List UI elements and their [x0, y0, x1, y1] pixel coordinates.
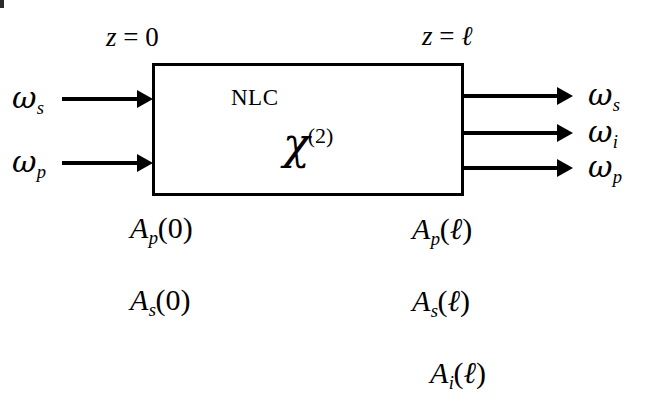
- output-frequency-label-idler: ωi: [588, 114, 618, 149]
- amplitude-subscript: p: [149, 227, 158, 248]
- omega-symbol: ω: [12, 80, 36, 115]
- output-plane-label: z = ℓ: [422, 20, 473, 52]
- output-frequency-label-pump: ωp: [588, 149, 622, 184]
- amplitude-argument: ℓ: [464, 355, 477, 390]
- nlc-label: NLC: [231, 85, 279, 111]
- output-amplitude-label-pump: Ap(ℓ): [412, 211, 472, 246]
- output-arrow-shaft-idler: [464, 131, 560, 135]
- chi-susceptibility-label: χ(2): [283, 118, 335, 169]
- output-plane-equals: =: [439, 21, 454, 51]
- output-amplitude-label-signal: As(ℓ): [412, 283, 470, 318]
- output-plane-value: ℓ: [461, 20, 472, 51]
- output-arrow-shaft-signal: [464, 94, 560, 98]
- input-plane-variable: z: [106, 22, 117, 52]
- input-frequency-label-pump: ωp: [12, 144, 46, 179]
- amplitude-subscript: i: [449, 372, 454, 393]
- amplitude-symbol: A: [412, 212, 430, 245]
- output-arrow-shaft-pump: [464, 166, 560, 170]
- output-frequency-label-signal: ωs: [588, 77, 620, 112]
- chi-symbol: χ: [283, 118, 310, 169]
- omega-symbol: ω: [588, 114, 612, 149]
- omega-subscript: s: [37, 97, 44, 118]
- input-amplitude-label-signal: As(0): [130, 283, 191, 317]
- amplitude-argument: 0: [166, 283, 181, 316]
- chi-order-superscript: (2): [308, 123, 334, 148]
- scan-artifact: [0, 0, 4, 8]
- input-plane-value: 0: [145, 22, 159, 52]
- output-amplitude-label-idler: Ai(ℓ): [430, 355, 486, 390]
- amplitude-symbol: A: [130, 211, 148, 244]
- input-frequency-label-signal: ωs: [12, 80, 44, 115]
- output-arrow-head-signal: [557, 87, 573, 105]
- amplitude-argument: ℓ: [448, 283, 461, 318]
- amplitude-argument: ℓ: [450, 211, 463, 246]
- output-arrow-head-idler: [557, 124, 573, 142]
- amplitude-symbol: A: [130, 283, 148, 316]
- input-plane-label: z = 0: [106, 22, 159, 53]
- output-arrow-head-pump: [557, 159, 573, 177]
- amplitude-subscript: s: [431, 300, 438, 321]
- input-arrow-head-signal: [137, 90, 153, 108]
- omega-symbol: ω: [588, 149, 612, 184]
- amplitude-subscript: s: [149, 299, 156, 320]
- amplitude-argument: 0: [168, 211, 183, 244]
- amplitude-symbol: A: [430, 356, 448, 389]
- omega-subscript: p: [37, 161, 46, 182]
- input-amplitude-label-pump: Ap(0): [130, 211, 193, 245]
- amplitude-symbol: A: [412, 284, 430, 317]
- amplitude-subscript: p: [431, 228, 440, 249]
- omega-symbol: ω: [588, 77, 612, 112]
- omega-subscript: p: [613, 166, 622, 187]
- input-arrow-shaft-pump: [62, 161, 140, 165]
- output-plane-variable: z: [422, 21, 433, 51]
- diagram-canvas: z = 0 z = ℓ NLC χ(2) ωs ωp ωs ωi ωp Ap(0…: [0, 0, 655, 418]
- input-arrow-shaft-signal: [62, 97, 140, 101]
- omega-subscript: s: [613, 94, 620, 115]
- input-arrow-head-pump: [137, 154, 153, 172]
- input-plane-equals: =: [123, 22, 138, 52]
- omega-symbol: ω: [12, 144, 36, 179]
